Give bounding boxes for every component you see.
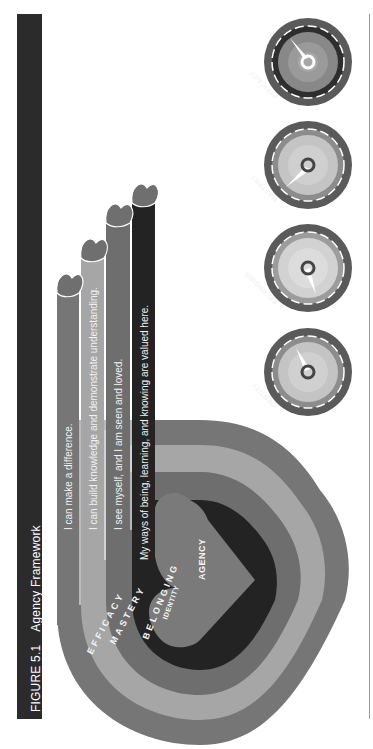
agency-framework-figure: FIGURE 5.1 Agency Framework	[0, 0, 373, 749]
statement-belonging: I see myself, and I am seen and loved.	[113, 359, 124, 530]
agency-diagram: I can make a difference. I can build kno…	[0, 0, 373, 749]
gauge-efficacy: EFFICACY	[248, 18, 352, 106]
statement-mastery: I can build knowledge and demonstrate un…	[88, 287, 99, 530]
heart-tip-identity-icon	[132, 184, 159, 207]
gauge-belonging: BELONGING	[243, 224, 352, 312]
statement-identity: My ways of being, learning, and knowing …	[139, 305, 150, 560]
heart-tip-belonging-icon	[106, 204, 133, 227]
heart-tip-efficacy-icon	[57, 274, 83, 297]
center-label-agency: AGENCY	[197, 538, 207, 580]
gauge-mastery: MASTERY	[249, 121, 352, 209]
gauge-identity: IDENTITY	[250, 328, 352, 416]
heart-tip-mastery-icon	[81, 239, 108, 262]
statement-efficacy: I can make a difference.	[63, 423, 74, 530]
